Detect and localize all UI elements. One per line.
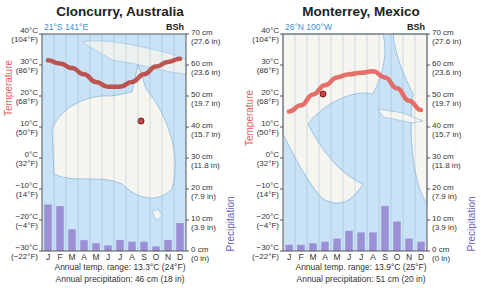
precip-bar [152, 246, 159, 251]
month-label: S [141, 252, 147, 262]
precip-bar [369, 232, 376, 251]
precip-bar [56, 206, 63, 251]
precip-bar [128, 242, 135, 251]
precip-tick-label: 20 cm [191, 183, 213, 192]
precip-tick-label: 10 cm [191, 214, 213, 223]
month-label: S [382, 252, 388, 262]
precip-bar [92, 243, 99, 251]
precip-bar [345, 231, 352, 251]
precip-tick-label-in: (7.9 in) [191, 192, 216, 201]
precip-tick-label: 20 cm [432, 183, 454, 192]
month-label: F [298, 252, 303, 262]
month-label: M [92, 252, 99, 262]
temp-tick-label: 0°C [25, 150, 39, 159]
precip-bar [285, 245, 292, 251]
month-label: A [81, 252, 87, 262]
temp-tick-label-f: (−4°F) [256, 221, 279, 230]
temp-tick-label-f: (32°F) [257, 159, 280, 168]
temp-tick-label: 20°C [261, 88, 279, 97]
month-label: N [406, 252, 412, 262]
location-marker [138, 118, 144, 124]
temp-range-caption: Annual temp. range: 13.3°C (24°F) [0, 262, 240, 272]
temperature-axis-title: Temperature [3, 59, 14, 116]
climate-code: BSh [407, 22, 425, 32]
precip-tick-label: 70 cm [191, 28, 213, 37]
month-label: N [165, 252, 171, 262]
temp-range-caption: Annual temp. range: 13.9°C (25°F) [241, 262, 481, 272]
month-label: D [418, 252, 424, 262]
precipitation-axis-title: Precipitation [225, 196, 236, 251]
precip-tick-label: 60 cm [432, 59, 454, 68]
temp-tick-label: 40°C [20, 26, 38, 35]
temperature-axis-title: Temperature [244, 89, 255, 146]
temp-tick-label-f: (50°F) [257, 128, 280, 137]
month-label: M [68, 252, 75, 262]
temp-tick-label: 20°C [20, 88, 38, 97]
precip-caption: Annual precipitation: 51 cm (20 in) [241, 274, 481, 284]
temp-tick-label: −30°C [15, 243, 38, 252]
month-label: D [177, 252, 183, 262]
precip-bar [104, 245, 111, 251]
month-label: J [347, 252, 351, 262]
temp-tick-label-f: (−22°F) [11, 252, 38, 261]
precip-tick-label-in: (3.9 in) [191, 223, 216, 232]
temp-tick-label-f: (−4°F) [15, 221, 38, 230]
precip-tick-label-in: (15.7 in) [432, 130, 462, 139]
panel-cloncurry: Cloncurry, Australia 21°S 141°EBSh40°C(1… [0, 0, 240, 293]
month-label: M [309, 252, 316, 262]
precip-bar [357, 232, 364, 251]
precip-tick-label-in: (27.6 in) [432, 37, 462, 46]
month-label: M [333, 252, 340, 262]
month-label: A [129, 252, 135, 262]
precip-tick-label-in: (11.8 in) [191, 161, 220, 170]
temp-tick-label-f: (50°F) [16, 128, 39, 137]
precip-bar [44, 205, 51, 252]
month-label: F [57, 252, 62, 262]
precip-tick-label-in: (15.7 in) [191, 130, 221, 139]
coordinates: 21°S 141°E [44, 22, 88, 32]
precipitation-axis-title: Precipitation [466, 196, 477, 251]
precip-tick-label: 0 cm [432, 245, 450, 254]
temp-tick-label: 30°C [20, 57, 38, 66]
month-label: J [46, 252, 50, 262]
precip-tick-label-in: (23.6 in) [432, 68, 462, 77]
precip-tick-label-in: (27.6 in) [191, 37, 221, 46]
precip-tick-label-in: (7.9 in) [432, 192, 457, 201]
temp-tick-label: −10°C [256, 181, 279, 190]
precip-tick-label-in: (19.7 in) [191, 99, 221, 108]
temp-tick-label-f: (68°F) [16, 97, 39, 106]
month-label: J [287, 252, 291, 262]
temp-tick-label-f: (32°F) [16, 159, 39, 168]
precip-tick-label: 30 cm [432, 152, 454, 161]
precip-tick-label-in: (23.6 in) [191, 68, 221, 77]
precip-bar [393, 222, 400, 251]
precip-tick-label: 40 cm [432, 121, 454, 130]
precip-tick-label: 60 cm [191, 59, 213, 68]
precip-bar [405, 239, 412, 251]
temp-tick-label: 40°C [261, 26, 279, 35]
precip-tick-label: 50 cm [432, 90, 454, 99]
panel-monterrey: Monterrey, Mexico 26°N 100°WBSh40°C(104°… [241, 0, 481, 293]
precip-bar [333, 239, 340, 251]
precip-tick-label: 70 cm [432, 28, 454, 37]
month-label: O [153, 252, 160, 262]
month-label: A [370, 252, 376, 262]
precip-bar [176, 223, 183, 251]
temp-tick-label-f: (68°F) [257, 97, 280, 106]
month-label: J [118, 252, 122, 262]
temp-tick-label: −30°C [256, 243, 279, 252]
precip-bar [164, 240, 171, 251]
precip-bar [297, 245, 304, 251]
temp-tick-label-f: (104°F) [252, 35, 279, 44]
precip-bar [381, 206, 388, 251]
precip-caption: Annual precipitation: 46 cm (18 in) [0, 274, 240, 284]
temp-tick-label-f: (86°F) [16, 66, 39, 75]
precip-bar [68, 229, 75, 251]
precip-bar [309, 243, 316, 251]
month-label: J [359, 252, 363, 262]
climate-chart-monterrey: 26°N 100°WBSh40°C(104°F)30°C(86°F)20°C(6… [241, 0, 481, 293]
precip-bar [417, 242, 424, 251]
month-label: A [322, 252, 328, 262]
coordinates: 26°N 100°W [285, 22, 332, 32]
temp-tick-label: −10°C [15, 181, 38, 190]
